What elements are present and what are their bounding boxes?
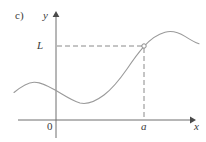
y-axis-arrowhead-icon [53, 11, 60, 17]
point-value-label: a [141, 121, 147, 132]
marked-point-marker [142, 44, 146, 48]
x-axis-label: x [194, 121, 199, 132]
graph-canvas [0, 0, 206, 142]
limit-value-label: L [37, 40, 43, 51]
part-label: c) [15, 10, 24, 21]
x-axis [18, 117, 196, 124]
origin-label: 0 [47, 121, 53, 132]
y-axis-label: y [43, 10, 48, 21]
y-axis [53, 11, 60, 138]
function-graph-figure: c) y L 0 a x [0, 0, 206, 142]
